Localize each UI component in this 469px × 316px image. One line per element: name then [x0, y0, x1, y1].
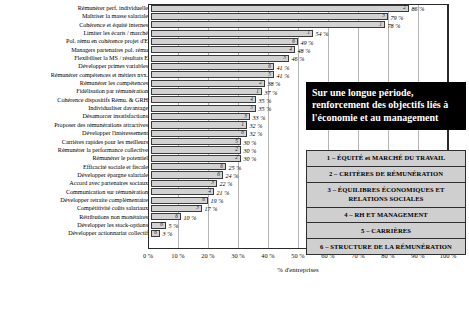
x-tick-label: 10 % [171, 252, 184, 259]
bar-category-label: Managers partenaires pol. rému [0, 46, 151, 54]
bar-group-code: 3 [283, 56, 286, 61]
bar-value-label: 25 % [229, 163, 242, 170]
bar: 3 [151, 13, 388, 20]
bar-value-label: 54 % [316, 30, 329, 37]
bar-value-label: 32 % [250, 121, 263, 128]
bar-row: Flexibiliser la MS / résultats E346 % [0, 54, 469, 62]
bar-category-label: Flexibiliser la MS / résultats E [0, 54, 151, 62]
bar-group-code: 1 [256, 89, 259, 94]
bar-row: Managers partenaires pol. rému448 % [0, 46, 469, 54]
bar-group-code: 3 [211, 181, 214, 186]
bar-value-label: 22 % [220, 180, 233, 187]
legend-item: 3 – ÉQUILIBRES ÉCONOMIQUES ET RELATIONS … [307, 183, 465, 208]
bar-value-label: 21 % [217, 188, 230, 195]
bar-value-label: 41 % [277, 63, 290, 70]
bar-row: Cohérence et équité internes178 % [0, 21, 469, 29]
bar-track: 379 % [151, 12, 451, 20]
bar-category-label: Efficacité sociale et fiscale [0, 163, 151, 171]
bar: 6 [151, 222, 166, 229]
bar-value-label: 33 % [253, 113, 266, 120]
bar: 6 [151, 230, 160, 237]
bar: 4 [151, 96, 256, 103]
bar-group-code: 4 [250, 97, 253, 102]
bar-group-code: 6 [268, 64, 271, 69]
bar-category-label: Développer primes variables [0, 62, 151, 70]
bar-row: Développer primes variables641 % [0, 62, 469, 70]
bar-group-code: 6 [217, 172, 220, 177]
bar-group-code: 1 [379, 22, 382, 27]
x-tick-label: 0 % [143, 252, 153, 259]
legend-item: 2 – CRITÈRES DE RÉMUNÉRATION [307, 167, 465, 183]
bar-category-label: Développer l'intéressement [0, 129, 151, 137]
bar-group-code: 3 [244, 114, 247, 119]
bar-group-code: 6 [175, 214, 178, 219]
bar-track: 632 % [151, 129, 451, 137]
bar-category-label: Rémunérer les compétences [0, 79, 151, 87]
bar-value-label: 30 % [244, 155, 257, 162]
bar-value-label: 78 % [388, 21, 401, 28]
bar-value-label: 48 % [298, 46, 311, 53]
bar-track: 178 % [151, 21, 451, 29]
bar-group-code: 5 [235, 139, 238, 144]
bar-category-label: Compétitivité coûts salariaux [0, 204, 151, 212]
bar: 6 [151, 197, 208, 204]
bar: 6 [151, 38, 298, 45]
bar-value-label: 3 % [163, 230, 173, 237]
bar: 2 [151, 5, 409, 12]
bar-track: 154 % [151, 29, 451, 37]
legend-item: 1 – ÉQUITÉ et MARCHÉ DU TRAVAIL [307, 151, 465, 167]
bar-category-label: Développer épargne salariale [0, 171, 151, 179]
bar: 1 [151, 121, 247, 128]
bar-category-label: Pol. rému en cohérence projet d'E [0, 37, 151, 45]
bar-track: 346 % [151, 54, 451, 62]
bar-track: 541 % [151, 71, 451, 79]
bar: 2 [151, 146, 241, 153]
bar-value-label: 17 % [205, 205, 218, 212]
bar: 5 [151, 105, 256, 112]
bar-group-code: 6 [202, 197, 205, 202]
bar-track: 641 % [151, 62, 451, 70]
bar-category-label: Développer actionnariat collectif [0, 229, 151, 237]
bar: 3 [151, 205, 202, 212]
bar: 6 [151, 213, 181, 220]
bar-group-code: 2 [403, 5, 406, 10]
bar-row: Développer l'intéressement632 % [0, 129, 469, 137]
bar-chart: Rémunérer perf. individuelle286 %Maîtris… [0, 0, 469, 316]
bar: 6 [151, 163, 226, 170]
bar-row: Rémunérer perf. individuelle286 % [0, 4, 469, 12]
legend-box: 1 – ÉQUITÉ et MARCHÉ DU TRAVAIL2 – CRITÈ… [306, 150, 466, 255]
bar-value-label: 24 % [226, 172, 239, 179]
bar-category-label: Désamorcer insatisfactions [0, 112, 151, 120]
bar: 5 [151, 138, 241, 145]
bar-category-label: Individualiser davantage [0, 104, 151, 112]
bar-category-label: Rémunérer la performance collective [0, 146, 151, 154]
bar-group-code: 6 [241, 131, 244, 136]
bar-group-code: 1 [307, 31, 310, 36]
bar-value-label: 19 % [211, 197, 224, 204]
bar-group-code: 4 [208, 189, 211, 194]
bar-category-label: Communication sur rémunération [0, 188, 151, 196]
bar-group-code: 6 [220, 164, 223, 169]
x-axis-title: % d'entreprises [148, 266, 448, 273]
bar-track: 649 % [151, 37, 451, 45]
bar: 6 [151, 171, 223, 178]
bar-row: Limiter les écarts / marché154 % [0, 29, 469, 37]
bar-value-label: 5 % [169, 222, 179, 229]
bar-row: Pol. rému en cohérence projet d'E649 % [0, 37, 469, 45]
bar-group-code: 2 [235, 147, 238, 152]
callout-box: Sur une longue période, renforcement des… [306, 82, 466, 130]
bar-row: Carrières rapides pour les meilleurs530 … [0, 138, 469, 146]
bar-category-label: Cohérence dispositifs Rému. & GRH [0, 96, 151, 104]
bar-category-label: Rémunérer compétences et métiers nvx. [0, 71, 151, 79]
bar-category-label: Développer retraite complémentaire [0, 196, 151, 204]
bar-value-label: 35 % [259, 96, 272, 103]
bar-category-label: Rémunérer perf. individuelle [0, 4, 151, 12]
bar-category-label: Carrières rapides pour les meilleurs [0, 138, 151, 146]
bar-track: 448 % [151, 46, 451, 54]
legend-item: 6 – STRUCTURE DE LA RÉMUNÉRATION [307, 239, 465, 254]
bar: 2 [151, 80, 265, 87]
bar-category-label: Développer les stock-options [0, 221, 151, 229]
bar-value-label: 30 % [244, 147, 257, 154]
bar-group-code: 1 [241, 122, 244, 127]
bar-group-code: 5 [268, 72, 271, 77]
